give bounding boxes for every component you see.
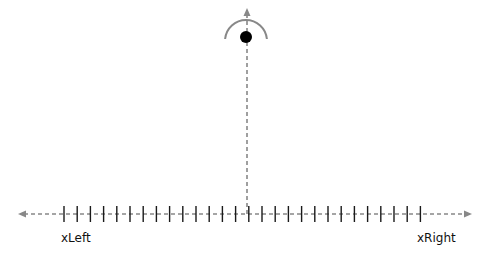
horizontal-axis: [18, 211, 472, 218]
arrow-left-icon: [18, 211, 26, 218]
pendulum: [225, 20, 267, 43]
arrow-right-icon: [464, 211, 472, 218]
x-left-label: xLeft: [61, 231, 91, 245]
diagram-canvas: [0, 0, 492, 255]
arrow-up-icon: [244, 8, 251, 16]
pendulum-bob: [240, 31, 252, 43]
x-right-label: xRight: [417, 231, 456, 245]
